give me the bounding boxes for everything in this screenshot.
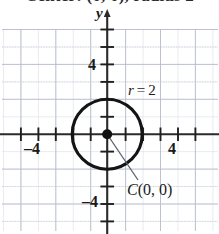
figure-container: Center: (0, 0), radius 2 (0, 0, 219, 234)
x-tick-label-positive-4: 4 (168, 141, 176, 157)
center-point-dot (102, 129, 112, 139)
y-tick-label-positive-4: 4 (88, 57, 96, 73)
radius-annotation: r = 2 (128, 83, 156, 98)
radius-variable: r (128, 82, 134, 98)
grid-major (2, 29, 218, 231)
y-axis-label: y (96, 6, 103, 21)
coordinate-plot (0, 0, 219, 234)
y-tick-label-negative-4: –4 (82, 194, 98, 210)
radius-value: 2 (148, 82, 156, 98)
grid-minor (2, 29, 218, 231)
x-tick-label-negative-4: –4 (24, 141, 40, 157)
axes (0, 9, 219, 234)
center-annotation: C(0, 0) (127, 182, 172, 198)
center-symbol: C (127, 181, 138, 198)
y-axis-arrowhead (104, 9, 111, 17)
radius-equals: = (137, 82, 145, 98)
center-coords: (0, 0) (138, 181, 173, 198)
